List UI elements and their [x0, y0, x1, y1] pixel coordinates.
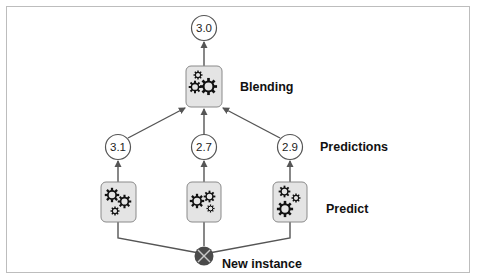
- blending-label: Blending: [240, 81, 293, 94]
- prediction-node: 2.9: [278, 135, 303, 160]
- prediction-node: 3.1: [106, 135, 131, 160]
- predictions-label: Predictions: [320, 141, 388, 154]
- final-output-value: 3.0: [196, 22, 212, 34]
- new-instance-label: New instance: [222, 258, 302, 271]
- prediction-node: 2.7: [192, 135, 217, 160]
- blender-box: [186, 66, 222, 107]
- prediction-value: 3.1: [110, 141, 126, 153]
- predictor-box: [187, 182, 221, 222]
- prediction-value: 2.7: [196, 141, 212, 153]
- predictor-box: [273, 182, 307, 222]
- blending-diagram: 3.0 3.1 2.7 2.9: [0, 0, 477, 280]
- prediction-value: 2.9: [282, 141, 298, 153]
- final-output-node: 3.0: [192, 16, 217, 41]
- predict-label: Predict: [326, 203, 368, 216]
- predictor-box: [101, 182, 136, 222]
- x-circle-icon: [195, 247, 214, 266]
